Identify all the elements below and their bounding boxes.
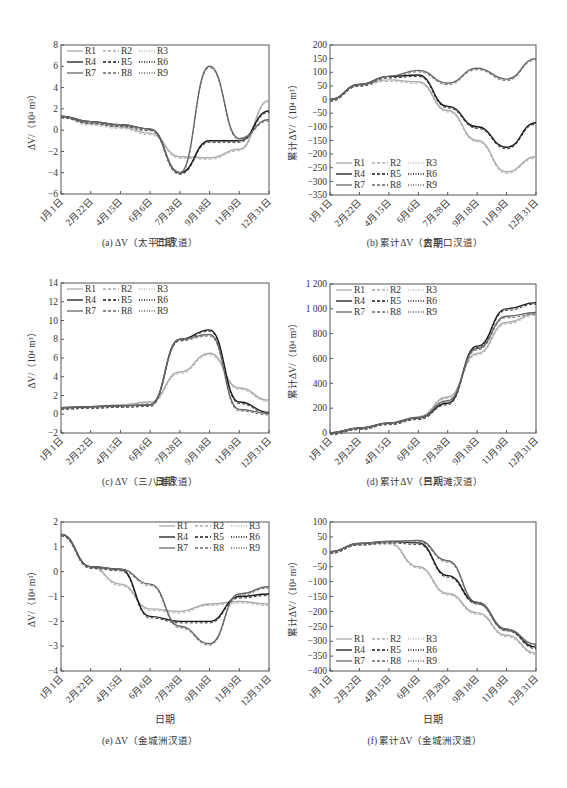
legend-label: R9 [157,306,168,316]
legend-label: R4 [177,532,188,542]
y-axis-label: 累计ΔV/（10⁴ m³） [287,318,298,399]
chart-b: −350−300−250−200−150−100−500501001502001… [287,40,540,249]
legend-label: R2 [390,634,401,644]
legend-label: R1 [177,521,188,531]
x-tick-label: 7月28日 [421,197,452,228]
y-tick-label: 6 [53,61,58,71]
legend-label: R3 [426,285,437,295]
series-line [330,540,536,644]
legend-label: R2 [390,158,401,168]
legend-label: R5 [121,57,132,67]
legend-label: R5 [390,169,401,179]
y-tick-label: −350 [307,190,327,200]
legend-label: R3 [249,521,260,531]
figure-caption: (f) 累计ΔV（金城洲汊道） [368,735,483,747]
y-tick-label: −250 [307,622,327,632]
legend-label: R8 [213,543,224,553]
x-tick-label: 2月22日 [64,196,95,227]
legend-label: R6 [426,645,437,655]
x-tick-label: 6月6日 [395,197,423,225]
y-tick-label: −100 [307,122,327,132]
legend-label: R4 [354,645,365,655]
x-tick-label: 4月15日 [362,197,393,228]
series-line [330,313,536,433]
x-tick-label: 9月18日 [183,673,214,704]
x-tick-label: 2月22日 [333,673,364,704]
legend-label: R4 [354,169,365,179]
series-line-variant [61,536,269,645]
legend-label: R1 [354,634,365,644]
y-tick-label: −200 [307,607,327,617]
x-tick-label: 1月1日 [37,673,65,701]
y-tick-label: −4 [48,168,58,178]
y-axis-label: 累计ΔV/（10⁴ m³） [287,556,298,637]
y-tick-label: 0 [322,547,327,557]
y-tick-label: 0 [322,95,327,105]
series-line-variant [330,542,536,646]
x-tick-label: 4月15日 [94,196,125,227]
legend-label: R2 [121,46,132,56]
y-tick-label: −200 [307,149,327,159]
x-tick-label: 9月18日 [183,435,214,466]
x-tick-label: 12月31日 [239,673,274,708]
y-axis-label: ΔV/（10⁴ m³） [26,566,37,627]
x-tick-label: 4月15日 [362,673,393,704]
legend-label: R9 [426,307,437,317]
y-tick-label: −50 [312,108,327,118]
legend-label: R9 [249,543,260,553]
x-tick-label: 6月6日 [127,196,155,224]
series-line-variant [330,314,536,434]
series-line-variant [330,77,536,149]
x-tick-label: 7月28日 [153,435,184,466]
y-axis-label: ΔV/（10⁴ m³） [26,327,37,388]
legend-label: R6 [157,295,168,305]
y-tick-label: 150 [313,54,328,64]
figure-caption: (a) ΔV（太平口汊道） [102,237,198,249]
x-tick-label: 1月1日 [306,197,334,225]
x-tick-label: 1月1日 [37,435,65,463]
legend-label: R6 [426,169,437,179]
x-tick-label: 4月15日 [94,673,125,704]
legend-label: R7 [85,68,96,78]
x-tick-label: 2月22日 [64,673,95,704]
y-tick-label: 4 [53,83,58,93]
y-tick-label: 50 [318,532,328,542]
chart-a: −6−4−2024681月1日2月22日4月15日6月6日7月28日9月18日1… [26,40,273,249]
legend-label: R2 [390,285,401,295]
x-tick-label: 12月31日 [239,196,274,231]
legend-label: R1 [85,46,96,56]
y-tick-label: 12 [49,297,59,307]
x-tick-label: 2月22日 [333,197,364,228]
legend-label: R8 [121,68,132,78]
x-tick-label: 2月22日 [64,435,95,466]
x-tick-label: 4月15日 [362,435,393,466]
legend-label: R1 [85,284,96,294]
y-tick-label: 2 [53,391,58,401]
chart-e: −4−3−2−10121月1日2月22日4月15日6月6日7月28日9月18日1… [26,517,273,747]
x-tick-label: 1月1日 [306,435,334,463]
x-tick-label: 12月31日 [239,435,274,470]
figure-caption: (c) ΔV（三八滩汊道） [102,476,198,488]
legend-label: R4 [354,296,365,306]
y-tick-label: 100 [313,67,328,77]
y-axis-label: ΔV/（10⁴ m³） [26,89,37,150]
legend-label: R5 [121,295,132,305]
y-tick-label: −100 [307,577,327,587]
x-tick-label: 6月6日 [127,435,155,463]
y-tick-label: −300 [307,636,327,646]
series-line [61,353,269,407]
y-tick-label: 0 [53,409,58,419]
y-tick-label: 400 [313,379,328,389]
y-tick-label: −400 [307,666,327,676]
x-axis-label: 日期 [155,714,175,725]
series-line-variant [330,315,536,434]
chart-d: 02004006008001 0001 2001月1日2月22日4月15日6月6… [287,279,540,488]
y-tick-label: 6 [53,353,58,363]
y-tick-label: 0 [53,567,58,577]
chart-c: −2024681012141月1日2月22日4月15日6月6日7月28日9月18… [26,278,273,488]
x-tick-label: 1月1日 [37,196,65,224]
x-axis-label: 日期 [423,714,443,725]
legend-label: R5 [213,532,224,542]
y-tick-label: 2 [53,517,58,527]
x-tick-label: 12月31日 [506,673,541,708]
